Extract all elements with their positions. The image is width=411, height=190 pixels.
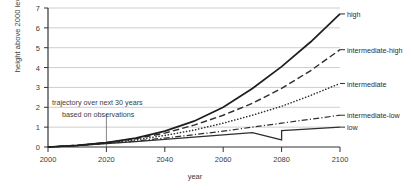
legend-label-intermediate: intermediate: [347, 80, 387, 89]
sea-level-rise-chart: height above 2000 levels / feet 7 6 5 4 …: [0, 0, 411, 190]
y-axis-title: height above 2000 levels / feet: [13, 0, 22, 86]
legend-label-intermediate-low: intermediate-low: [347, 111, 400, 120]
x-tick-label-2060: 2060: [206, 155, 240, 164]
y-tick-label-4: 4: [26, 64, 40, 73]
y-tick-label-6: 6: [26, 24, 40, 33]
x-tick-marks: [48, 147, 340, 152]
legend-leaders: [340, 14, 345, 127]
series-line-intermediate-low: [48, 115, 340, 147]
y-tick-label-5: 5: [26, 44, 40, 53]
y-tick-label-1: 1: [26, 123, 40, 132]
legend-label-high: high: [347, 10, 361, 19]
annotation-line-2: based on observations: [62, 110, 134, 119]
y-tick-label-2: 2: [26, 103, 40, 112]
x-tick-label-2020: 2020: [89, 155, 123, 164]
x-axis-title: year: [0, 172, 390, 181]
x-tick-label-2040: 2040: [148, 155, 182, 164]
y-tick-label-3: 3: [26, 83, 40, 92]
x-tick-label-2000: 2000: [31, 155, 65, 164]
y-tick-label-0: 0: [26, 143, 40, 152]
x-tick-label-2080: 2080: [265, 155, 299, 164]
legend-label-low: low: [347, 123, 358, 132]
legend-label-intermediate-high: intermediate-high: [347, 46, 403, 55]
x-tick-label-2100: 2100: [323, 155, 357, 164]
annotation-line-1: trajectory over next 30 years: [52, 98, 143, 107]
y-tick-label-7: 7: [26, 4, 40, 13]
